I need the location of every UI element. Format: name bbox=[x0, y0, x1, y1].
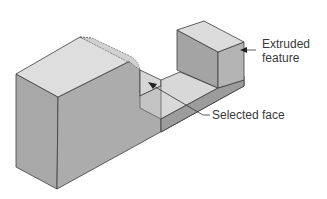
extruded-feature-label-line2: feature bbox=[262, 51, 310, 65]
extruded-feature-label-line1: Extruded bbox=[262, 37, 310, 51]
extruded-feature-label: Extruded feature bbox=[262, 37, 310, 65]
selected-face-label: Selected face bbox=[212, 108, 285, 122]
solid-model-drawing bbox=[0, 0, 327, 199]
